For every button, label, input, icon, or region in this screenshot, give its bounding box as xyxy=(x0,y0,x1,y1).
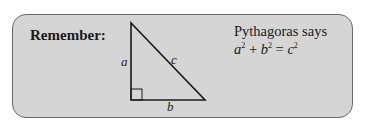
exponent: 2 xyxy=(241,41,245,50)
equals-sign: = xyxy=(276,41,284,57)
remember-heading: Remember: xyxy=(30,27,106,44)
pythagoras-statement: Pythagoras says xyxy=(234,23,327,40)
side-b-label: b xyxy=(167,99,174,115)
side-a-label: a xyxy=(121,54,128,70)
pythagorean-formula: a2 + b2 = c2 xyxy=(234,41,298,58)
right-triangle-diagram xyxy=(100,20,215,110)
formula-b: b xyxy=(261,41,268,57)
plus-sign: + xyxy=(249,41,257,57)
exponent: 2 xyxy=(268,41,272,50)
exponent: 2 xyxy=(294,41,298,50)
right-angle-marker xyxy=(131,89,142,100)
side-c-label: c xyxy=(171,52,177,68)
